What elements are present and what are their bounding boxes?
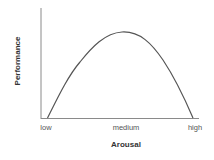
- x-tick-low: low: [40, 123, 52, 132]
- performance-curve: [48, 32, 194, 118]
- x-tick-medium: medium: [113, 123, 140, 132]
- x-tick-high: high: [188, 123, 202, 132]
- y-axis-title: Performance: [13, 36, 22, 85]
- x-axis-title: Arousal: [111, 140, 141, 149]
- arousal-performance-chart: low medium high Arousal Performance: [0, 0, 214, 160]
